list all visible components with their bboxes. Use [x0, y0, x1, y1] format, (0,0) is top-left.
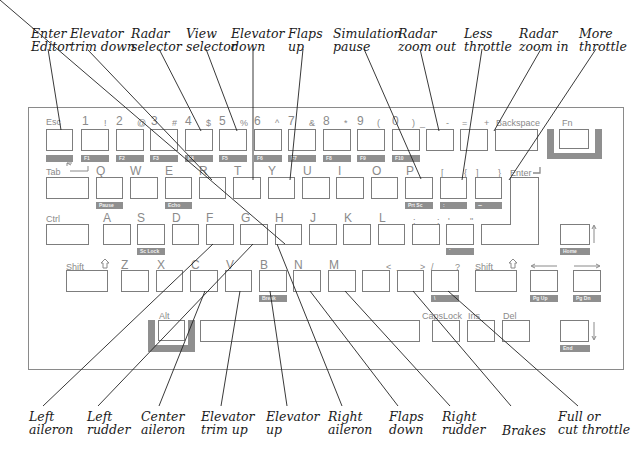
key-a[interactable]: [103, 224, 131, 245]
key-k[interactable]: [343, 224, 371, 245]
tag-f7: F7: [288, 155, 316, 162]
key-comma[interactable]: [362, 270, 390, 292]
key-backspace[interactable]: [495, 129, 538, 151]
legend-6: 6: [254, 115, 261, 127]
key-7[interactable]: [288, 129, 316, 151]
key-4[interactable]: [185, 129, 213, 151]
key-n[interactable]: [293, 270, 321, 292]
key-9[interactable]: [357, 129, 385, 151]
key-s[interactable]: [137, 224, 165, 245]
legend-2-shift: @: [137, 118, 146, 128]
callout-radar-zoom-in: Radarzoom in: [519, 27, 569, 53]
key-b[interactable]: [259, 270, 287, 292]
key-pg-dn[interactable]: [573, 270, 601, 292]
legend-esc: Esc: [46, 117, 61, 127]
tag-break: Break: [259, 295, 287, 302]
legend-1-shift: !: [104, 118, 107, 128]
key-f[interactable]: [206, 224, 234, 245]
key-p[interactable]: [405, 177, 433, 199]
legend-0-shift: ): [412, 118, 415, 128]
callout-elevator-down: Elevatordown: [231, 27, 285, 53]
key-6[interactable]: [254, 129, 282, 151]
key-0[interactable]: [392, 129, 420, 151]
key-end[interactable]: [560, 320, 589, 342]
tag-f4: F4: [185, 155, 213, 162]
callout-less-throttle: Lessthrottle: [464, 27, 512, 53]
legend-equals: =: [462, 118, 467, 128]
key-fn[interactable]: [559, 129, 589, 149]
key-semicolon[interactable]: [412, 224, 440, 245]
key-left-shift[interactable]: [66, 270, 108, 292]
legend-6-shift: ^: [275, 118, 279, 128]
callout-simulation-pause: Simulationpause: [333, 27, 402, 53]
callout-left-aileron: Leftaileron: [29, 410, 73, 436]
key-r[interactable]: [199, 177, 226, 199]
key-enter-lower[interactable]: [481, 224, 539, 245]
key-home[interactable]: [560, 224, 590, 245]
key-space[interactable]: [200, 320, 420, 342]
shift-arrow-icon-left: [100, 258, 110, 269]
key-equals[interactable]: [460, 129, 488, 151]
legend-d: D: [172, 212, 181, 224]
key-capslock[interactable]: [432, 320, 460, 342]
legend-o: O: [372, 165, 381, 177]
callout-enter-editor: EnterEditor: [31, 27, 71, 53]
key-minus[interactable]: [426, 129, 454, 151]
tag-f5: F5: [219, 155, 247, 162]
key-period[interactable]: [397, 270, 424, 292]
key-1[interactable]: [81, 129, 109, 151]
key-2[interactable]: [116, 129, 144, 151]
key-c[interactable]: [190, 270, 218, 292]
callout-full-or-cut-throttle: Full orcut throttle: [558, 410, 630, 436]
key-esc[interactable]: [46, 129, 73, 151]
key-z[interactable]: [121, 270, 149, 292]
key-g[interactable]: [240, 224, 268, 245]
legend-backspace: Backspace: [496, 118, 540, 128]
tag-pg-dn: Pg Dn: [573, 295, 601, 302]
key-slash[interactable]: [431, 270, 459, 292]
key-t[interactable]: [233, 177, 261, 199]
tag-colon: :: [440, 202, 467, 209]
key-right-shift[interactable]: [475, 270, 517, 292]
key-rbracket[interactable]: [475, 177, 502, 199]
key-q[interactable]: [96, 177, 123, 199]
tag-f10: F10: [392, 155, 420, 162]
key-j[interactable]: [309, 224, 337, 245]
legend-9: 9: [357, 115, 364, 127]
tag-backtick: `: [446, 248, 474, 255]
key-pg-up[interactable]: [530, 270, 558, 292]
legend-g: G: [241, 212, 250, 224]
tag-pg-up: Pg Up: [530, 295, 558, 302]
key-y[interactable]: [268, 177, 295, 199]
key-d[interactable]: [172, 224, 199, 245]
key-tab[interactable]: [46, 177, 89, 199]
tag-sc-lock: Sc Lock: [137, 248, 165, 255]
key-o[interactable]: [371, 177, 398, 199]
key-x[interactable]: [156, 270, 183, 292]
legend-i: I: [338, 165, 341, 177]
tag-f1: F1: [81, 155, 109, 162]
key-lbracket[interactable]: [440, 177, 467, 199]
key-ins[interactable]: [467, 320, 495, 342]
key-l[interactable]: [378, 224, 405, 245]
tag-f8: F8: [323, 155, 351, 162]
legend-a: A: [103, 212, 111, 224]
key-m[interactable]: [328, 270, 356, 292]
key-ctrl[interactable]: [46, 224, 89, 245]
fn-key-highlight-bottom: [547, 153, 602, 159]
tag-f9: F9: [357, 155, 385, 162]
key-3[interactable]: [150, 129, 178, 151]
key-e[interactable]: [165, 177, 192, 199]
callout-brakes: Brakes: [502, 424, 546, 437]
tag-end: End: [560, 345, 590, 352]
key-w[interactable]: [130, 177, 158, 199]
key-v[interactable]: [225, 270, 252, 292]
key-del[interactable]: [502, 320, 530, 342]
key-quote[interactable]: [446, 224, 474, 245]
key-alt[interactable]: [158, 320, 185, 341]
key-h[interactable]: [275, 224, 302, 245]
key-8[interactable]: [323, 129, 351, 151]
key-u[interactable]: [302, 177, 330, 199]
key-5[interactable]: [219, 129, 247, 151]
key-i[interactable]: [336, 177, 364, 199]
